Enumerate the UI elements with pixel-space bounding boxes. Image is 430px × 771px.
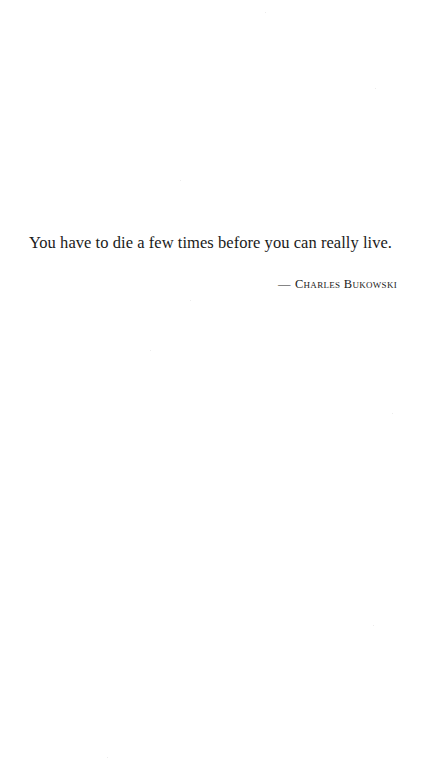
paper-speck xyxy=(107,757,108,758)
paper-speck xyxy=(265,12,266,13)
quote-author: Charles Bukowski xyxy=(295,277,397,291)
em-dash: — xyxy=(278,277,291,291)
paper-speck xyxy=(375,88,376,89)
paper-speck xyxy=(180,180,181,181)
quote-block: You have to die a few times before you c… xyxy=(29,232,401,254)
quote-attribution: —Charles Bukowski xyxy=(278,276,397,292)
paper-speck xyxy=(373,625,374,626)
quote-text: You have to die a few times before you c… xyxy=(29,232,401,254)
paper-speck xyxy=(150,350,151,351)
paper-speck xyxy=(392,413,393,414)
paper-speck xyxy=(190,300,191,301)
